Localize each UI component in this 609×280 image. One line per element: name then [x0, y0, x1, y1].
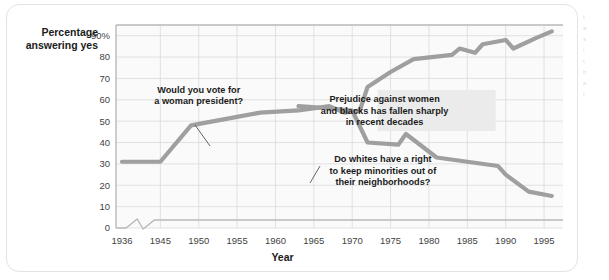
annotation-line: Would you vote for [157, 85, 240, 95]
y-tick-label: 40 [99, 137, 110, 148]
page-edge-line: i [583, 45, 609, 56]
y-tick-label: 60 [99, 94, 110, 105]
annotation-line: their neighborhoods? [335, 177, 430, 187]
y-tick-label: 0 [105, 222, 110, 233]
y-axis-title-line1: Percentage [41, 26, 98, 38]
annotation-line: to keep minorities out of [330, 166, 438, 176]
line-chart: Would you vote fora woman president?Prej… [7, 5, 579, 273]
page-edge-line: r [583, 89, 609, 100]
x-axis-tick-labels: 1936194519501955196019651970197519801985… [111, 235, 554, 246]
y-axis-title-line2: answering yes [26, 39, 99, 51]
page-edge-line: e [583, 78, 609, 89]
annotation-line: in recent decades [346, 117, 424, 127]
page-edge-line: t [583, 56, 609, 67]
annotation-woman-president: Would you vote fora woman president? [154, 85, 243, 106]
x-tick-label: 1965 [303, 235, 324, 246]
x-tick-label: 1950 [188, 235, 209, 246]
x-tick-label: 1936 [111, 235, 132, 246]
x-tick-label: 1970 [342, 235, 363, 246]
y-tick-label: 20 [99, 180, 110, 191]
y-tick-label: 70 [99, 73, 110, 84]
x-tick-label: 1995 [533, 235, 554, 246]
figure-card: Would you vote fora woman president?Prej… [6, 4, 578, 272]
x-axis-title: Year [271, 251, 293, 263]
x-tick-label: 1955 [227, 235, 248, 246]
y-axis-tick-labels: 0102030405060708090% [91, 30, 111, 233]
page-edge-line: t [583, 12, 609, 23]
adjacent-page-text-sliver: t a s i t h e r [583, 12, 609, 162]
page-edge-line: a [583, 23, 609, 34]
plot-background [116, 25, 563, 228]
x-tick-label: 1960 [265, 235, 286, 246]
y-tick-label: 10 [99, 201, 110, 212]
page-edge-line: s [583, 34, 609, 45]
x-tick-label: 1980 [418, 235, 439, 246]
plot-area [116, 25, 563, 228]
annotation-line: and blacks has fallen sharply [321, 106, 450, 116]
x-tick-label: 1985 [457, 235, 478, 246]
annotation-line: Prejudice against women [329, 94, 440, 104]
annotation-line: Do whites have a right [334, 154, 432, 164]
annotation-prejudice-fallen: Prejudice against womenand blacks has fa… [321, 90, 496, 131]
y-tick-label: 30 [99, 158, 110, 169]
annotation-whites-right: Do whites have a rightto keep minorities… [330, 154, 438, 187]
x-tick-label: 1990 [495, 235, 516, 246]
y-tick-label: 80 [99, 51, 110, 62]
x-tick-label: 1945 [150, 235, 171, 246]
x-tick-label: 1975 [380, 235, 401, 246]
annotation-line: a woman president? [154, 96, 243, 106]
page-edge-line: h [583, 67, 609, 78]
y-tick-label: 50 [99, 116, 110, 127]
